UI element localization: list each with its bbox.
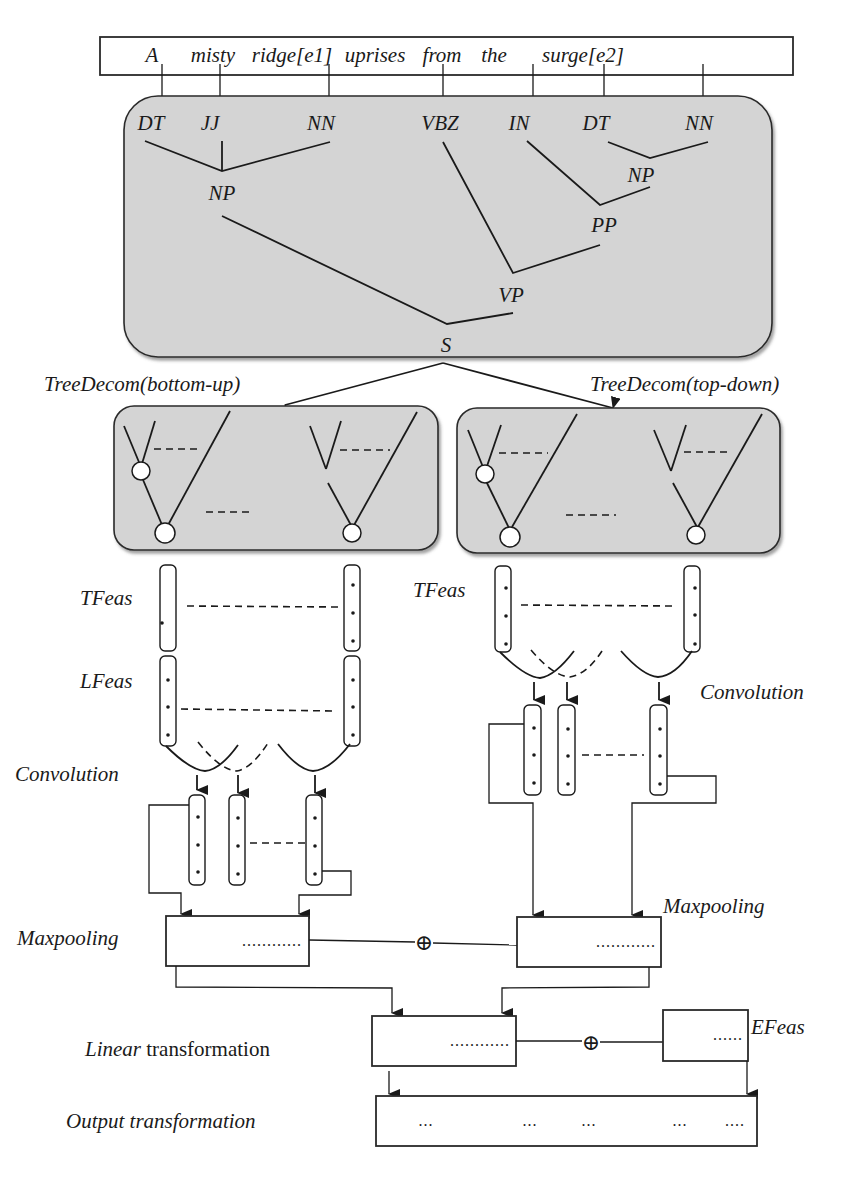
label-tfeas-right: TFeas bbox=[413, 578, 466, 602]
decomposition-arrows bbox=[285, 363, 613, 408]
right-convolution-windows bbox=[500, 650, 692, 700]
right-feature-map-vectors bbox=[489, 705, 716, 915]
maxpool-concat: ⊕ bbox=[309, 930, 517, 955]
sentence-box: A misty ridge[e1] uprises from the surge… bbox=[100, 37, 793, 75]
efeas-dots: ...... bbox=[713, 1026, 743, 1043]
label-tfeas-left: TFeas bbox=[80, 586, 133, 610]
output-dots: .... bbox=[725, 1112, 745, 1129]
output-dots: ... bbox=[582, 1112, 597, 1129]
pos-nn-1: NN bbox=[306, 111, 336, 135]
label-lfeas-left: LFeas bbox=[79, 669, 133, 693]
subtree-root-icon bbox=[687, 526, 705, 544]
left-lfeas-vectors bbox=[160, 656, 360, 746]
subtree-root-icon bbox=[500, 527, 520, 547]
node-np-left: NP bbox=[208, 181, 236, 205]
sentence-words: A misty ridge[e1] uprises from the surge… bbox=[144, 43, 624, 67]
word-uprises: uprises bbox=[345, 43, 406, 67]
node-np-right: NP bbox=[627, 163, 655, 187]
output-box: ... ... ... ... .... bbox=[376, 1096, 757, 1146]
concat-icon: ⊕ bbox=[415, 930, 433, 955]
output-dots: ... bbox=[673, 1112, 688, 1129]
label-treedecom-top-down: TreeDecom(top-down) bbox=[590, 372, 779, 396]
label-maxpooling-left: Maxpooling bbox=[16, 926, 118, 950]
pos-dt-2: DT bbox=[582, 111, 611, 135]
left-feature-map-vectors bbox=[149, 795, 351, 914]
output-dots: ... bbox=[419, 1112, 434, 1129]
efeas-box: ...... bbox=[663, 1010, 748, 1061]
right-tfeas-vectors bbox=[495, 566, 700, 652]
word-a: A bbox=[144, 43, 159, 67]
word-misty: misty bbox=[191, 43, 236, 67]
pos-vbz: VBZ bbox=[421, 111, 459, 135]
label-convolution-left: Convolution bbox=[15, 762, 119, 786]
linear-efeas-concat: ⊕ bbox=[516, 1030, 663, 1055]
word-surge-e2: surge[e2] bbox=[542, 43, 624, 67]
left-maxpool-box: ............ bbox=[166, 916, 309, 966]
bottom-up-subtrees-box bbox=[114, 406, 438, 550]
maxpool-left-dots: ............ bbox=[242, 932, 302, 949]
label-maxpooling-right: Maxpooling bbox=[662, 894, 764, 918]
label-convolution-right: Convolution bbox=[700, 680, 804, 704]
maxpool-right-dots: ............ bbox=[596, 933, 656, 950]
pos-in: IN bbox=[508, 111, 531, 135]
node-pp: PP bbox=[590, 213, 617, 237]
linear-box: ............ bbox=[372, 1016, 516, 1066]
subtree-node-icon bbox=[476, 465, 494, 483]
subtree-root-icon bbox=[343, 524, 361, 542]
label-output-transformation: Output transformation bbox=[66, 1109, 256, 1133]
node-s: S bbox=[441, 333, 452, 357]
left-tfeas-vectors bbox=[160, 565, 360, 651]
parse-tree-box: DT JJ NN VBZ IN DT NN NP NP PP VP S bbox=[124, 96, 772, 357]
word-from: from bbox=[423, 43, 462, 67]
label-efeas: EFeas bbox=[750, 1015, 805, 1039]
right-maxpool-box: ............ bbox=[517, 917, 661, 967]
left-convolution-windows bbox=[166, 742, 350, 793]
linear-dots: ............ bbox=[450, 1032, 510, 1049]
pos-jj: JJ bbox=[201, 111, 221, 135]
label-treedecom-bottom-up: TreeDecom(bottom-up) bbox=[44, 372, 240, 396]
subtree-node-icon bbox=[132, 462, 150, 480]
subtree-root-icon bbox=[155, 523, 175, 543]
pos-nn-2: NN bbox=[684, 111, 714, 135]
node-vp: VP bbox=[498, 283, 524, 307]
word-the: the bbox=[481, 43, 507, 67]
label-linear-transformation: Linear transformation bbox=[84, 1037, 270, 1061]
concat-icon: ⊕ bbox=[582, 1030, 600, 1055]
maxpool-to-linear-arrows bbox=[176, 966, 649, 1013]
output-dots: ... bbox=[523, 1112, 538, 1129]
pos-dt-1: DT bbox=[137, 111, 166, 135]
model-architecture-diagram: A misty ridge[e1] uprises from the surge… bbox=[0, 0, 867, 1178]
word-ridge-e1: ridge[e1] bbox=[252, 43, 333, 67]
top-down-subtrees-box bbox=[457, 408, 780, 553]
